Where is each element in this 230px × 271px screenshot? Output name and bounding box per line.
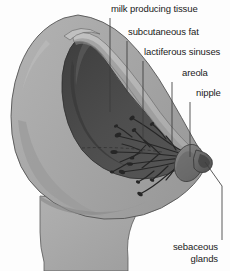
- label-lactiferous-sinuses: lactiferous sinuses: [144, 47, 220, 58]
- breast-anatomy-diagram: milk producing tissue subcutaneous fat l…: [0, 0, 230, 271]
- label-areola: areola: [182, 68, 208, 79]
- label-nipple: nipple: [196, 88, 221, 99]
- label-sebaceous-glands-line1: sebaceous: [150, 241, 218, 253]
- anatomy-illustration: [0, 0, 230, 271]
- label-milk-producing-tissue: milk producing tissue: [111, 4, 198, 15]
- label-sebaceous-glands: sebaceous glands: [150, 241, 218, 264]
- label-sebaceous-glands-line2: glands: [150, 253, 218, 265]
- label-subcutaneous-fat: subcutaneous fat: [128, 27, 199, 38]
- leader-sebaceous-glands: [205, 162, 222, 240]
